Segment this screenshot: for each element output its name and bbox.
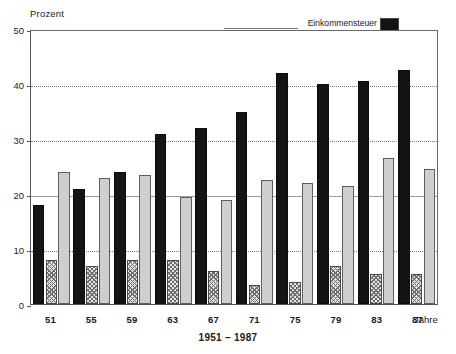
bar-group	[31, 31, 72, 304]
y-axis-title: Prozent	[30, 8, 64, 19]
bar	[99, 178, 111, 305]
bar	[302, 183, 314, 304]
x-axis-tick-label: 83	[356, 306, 397, 326]
bar	[261, 180, 273, 304]
bar	[33, 205, 45, 304]
bar	[411, 274, 423, 304]
bar-group	[72, 31, 113, 304]
bar	[46, 260, 58, 304]
bar-group	[193, 31, 234, 304]
bar	[195, 128, 207, 304]
bar	[370, 274, 382, 304]
legend-leader-line	[224, 28, 298, 29]
bar-group	[153, 31, 194, 304]
y-axis-tick-label: 30	[13, 136, 24, 146]
plot-area: 01020304050	[30, 30, 438, 305]
y-axis-tick-label: 40	[13, 81, 24, 91]
bar-groups	[31, 31, 437, 304]
bar	[180, 197, 192, 304]
y-axis-tick-label: 20	[13, 191, 24, 201]
bar-group	[234, 31, 275, 304]
x-axis-tick-label: 55	[71, 306, 112, 326]
x-axis-tick-label: 75	[275, 306, 316, 326]
x-axis-tick-label: 51	[30, 306, 71, 326]
x-axis-tick-labels: 51555963677175798387	[30, 306, 438, 326]
bar	[398, 70, 410, 304]
x-axis-title: Jahre	[414, 314, 438, 325]
bar	[424, 169, 436, 304]
bar	[342, 186, 354, 304]
bar	[139, 175, 151, 304]
bar-group	[396, 31, 437, 304]
bar	[86, 266, 98, 305]
bar	[276, 73, 288, 304]
bar	[330, 266, 342, 305]
bar-group	[315, 31, 356, 304]
bar	[289, 282, 301, 304]
legend-item-einkommensteuer: Einkommensteuer	[308, 18, 377, 30]
bar	[155, 134, 167, 305]
y-axis-tick-label: 10	[13, 246, 24, 256]
chart-caption: 1951 – 1987	[0, 332, 456, 343]
bar-group	[356, 31, 397, 304]
bar	[114, 172, 126, 304]
bar-chart: Prozent Einkommensteuer Körperschaftsste…	[0, 0, 456, 354]
bar-group	[275, 31, 316, 304]
bar	[358, 81, 370, 304]
bar	[249, 285, 261, 304]
x-axis-tick-label: 59	[112, 306, 153, 326]
y-axis-tick-label: 0	[19, 301, 24, 311]
bar	[167, 260, 179, 304]
y-axis-tick-label: 50	[13, 26, 24, 36]
x-axis-tick-label: 63	[152, 306, 193, 326]
bar	[208, 271, 220, 304]
plot-inner: 01020304050	[31, 31, 437, 304]
bar	[236, 112, 248, 305]
bar	[221, 200, 233, 305]
x-axis-tick-label: 71	[234, 306, 275, 326]
bar	[127, 260, 139, 304]
solid-black-swatch	[381, 19, 398, 31]
bar-group	[112, 31, 153, 304]
bar	[383, 158, 395, 304]
x-axis-tick-label: 67	[193, 306, 234, 326]
bar	[73, 189, 85, 305]
x-axis-tick-label: 79	[316, 306, 357, 326]
bar	[317, 84, 329, 304]
bar	[58, 172, 70, 304]
